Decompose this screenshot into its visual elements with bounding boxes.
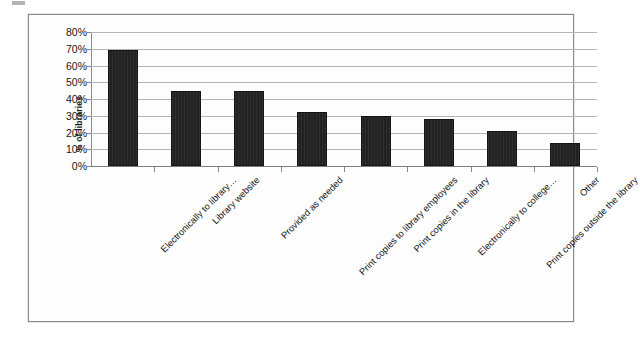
gridline	[91, 116, 597, 117]
y-axis-tick-labels: 80%70%60%50%40%30%20%10%0%	[49, 18, 89, 168]
x-axis-tick-mark	[154, 167, 155, 172]
x-axis-tick-mark	[218, 167, 219, 172]
y-axis-tick-label: 80%	[66, 26, 87, 38]
x-axis-tick-mark	[534, 167, 535, 172]
gridline	[91, 49, 597, 50]
gridline	[91, 149, 597, 150]
x-axis-tick-mark	[471, 167, 472, 172]
y-axis-tick-mark	[87, 99, 91, 100]
x-axis-tick-label: Electronically to college…	[476, 175, 558, 257]
gridline	[91, 82, 597, 83]
gridline	[91, 32, 597, 33]
bar[interactable]	[487, 131, 517, 166]
y-axis-tick-mark	[87, 149, 91, 150]
y-axis-tick-mark	[87, 166, 91, 167]
y-axis-tick-label: 40%	[66, 93, 87, 105]
y-axis-tick-label: 20%	[66, 127, 87, 139]
chart-frame: % of libraries 80%70%60%50%40%30%20%10%0…	[28, 14, 574, 322]
x-axis-tick-mark	[281, 167, 282, 172]
gridline	[91, 66, 597, 67]
bar[interactable]	[361, 116, 391, 166]
y-axis-tick-mark	[87, 133, 91, 134]
x-axis-tick-label: Other	[578, 175, 602, 199]
y-axis-tick-mark	[87, 32, 91, 33]
bar[interactable]	[297, 112, 327, 166]
gridline	[91, 99, 597, 100]
scan-artifact	[12, 1, 25, 5]
y-axis-tick-label: 50%	[66, 76, 87, 88]
gridline	[91, 133, 597, 134]
x-axis-tick-mark	[344, 167, 345, 172]
y-axis-tick-label: 0%	[72, 160, 87, 172]
y-axis-tick-mark	[87, 116, 91, 117]
x-axis-tick-mark	[597, 167, 598, 172]
y-axis-tick-mark	[87, 66, 91, 67]
bar[interactable]	[108, 50, 138, 166]
x-axis-tick-mark	[407, 167, 408, 172]
y-axis-tick-label: 60%	[66, 60, 87, 72]
plot-area	[91, 32, 597, 166]
bar[interactable]	[424, 119, 454, 166]
y-axis-tick-label: 10%	[66, 143, 87, 155]
y-axis-tick-label: 30%	[66, 110, 87, 122]
x-axis-tick-label: Provided as needed	[279, 175, 345, 241]
bar[interactable]	[234, 91, 264, 166]
y-axis-tick-label: 70%	[66, 43, 87, 55]
y-axis-tick-mark	[87, 82, 91, 83]
bar[interactable]	[550, 143, 580, 166]
y-axis-tick-mark	[87, 49, 91, 50]
bar[interactable]	[171, 91, 201, 166]
